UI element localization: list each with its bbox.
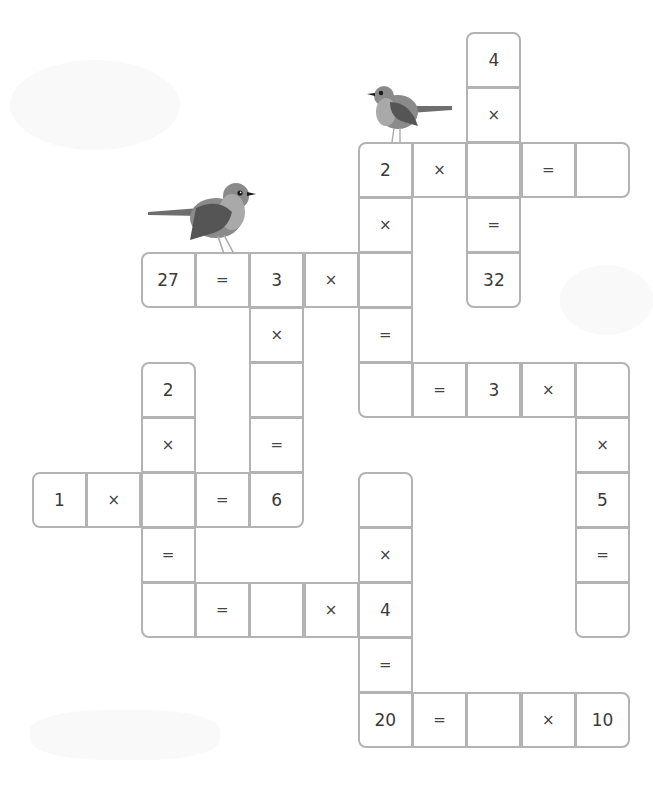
answer-cell[interactable] xyxy=(249,362,304,418)
answer-cell[interactable] xyxy=(141,472,196,528)
operator-cell: = xyxy=(195,582,250,638)
operator-cell: = xyxy=(575,527,630,583)
operator-cell: = xyxy=(195,252,250,308)
operator-cell: = xyxy=(358,637,413,693)
robin-bird-icon xyxy=(148,178,260,258)
operator-cell: = xyxy=(358,307,413,363)
number-cell: 2 xyxy=(141,362,196,418)
operator-cell: = xyxy=(195,472,250,528)
answer-cell[interactable] xyxy=(575,142,630,198)
operator-cell: × xyxy=(86,472,141,528)
number-cell: 4 xyxy=(358,582,413,638)
background-smudge xyxy=(560,265,653,335)
number-cell: 32 xyxy=(466,252,521,308)
operator-cell: × xyxy=(249,307,304,363)
number-cell: 20 xyxy=(358,692,413,748)
operator-cell: = xyxy=(412,362,467,418)
operator-cell: × xyxy=(141,417,196,473)
operator-cell: × xyxy=(358,197,413,253)
operator-cell: × xyxy=(521,692,576,748)
operator-cell: × xyxy=(521,362,576,418)
operator-cell: × xyxy=(466,87,521,143)
operator-cell: × xyxy=(358,527,413,583)
operator-cell: = xyxy=(412,692,467,748)
number-cell: 3 xyxy=(466,362,521,418)
number-cell: 10 xyxy=(575,692,630,748)
answer-cell[interactable] xyxy=(141,582,196,638)
operator-cell: × xyxy=(575,417,630,473)
background-smudge xyxy=(30,710,220,760)
operator-cell: × xyxy=(304,582,359,638)
answer-cell[interactable] xyxy=(249,582,304,638)
operator-cell: = xyxy=(466,197,521,253)
answer-cell[interactable] xyxy=(575,582,630,638)
operator-cell: × xyxy=(304,252,359,308)
answer-cell[interactable] xyxy=(466,142,521,198)
answer-cell[interactable] xyxy=(358,252,413,308)
number-cell: 3 xyxy=(249,252,304,308)
answer-cell[interactable] xyxy=(466,692,521,748)
number-cell: 4 xyxy=(466,32,521,88)
operator-cell: = xyxy=(249,417,304,473)
number-cell: 5 xyxy=(575,472,630,528)
answer-cell[interactable] xyxy=(358,472,413,528)
answer-cell[interactable] xyxy=(575,362,630,418)
operator-cell: = xyxy=(141,527,196,583)
number-cell: 27 xyxy=(141,252,196,308)
number-cell: 2 xyxy=(358,142,413,198)
operator-cell: × xyxy=(412,142,467,198)
number-cell: 6 xyxy=(249,472,304,528)
operator-cell: = xyxy=(521,142,576,198)
answer-cell[interactable] xyxy=(358,362,413,418)
robin-bird-icon xyxy=(366,82,454,144)
number-cell: 1 xyxy=(32,472,87,528)
background-smudge xyxy=(10,60,180,150)
